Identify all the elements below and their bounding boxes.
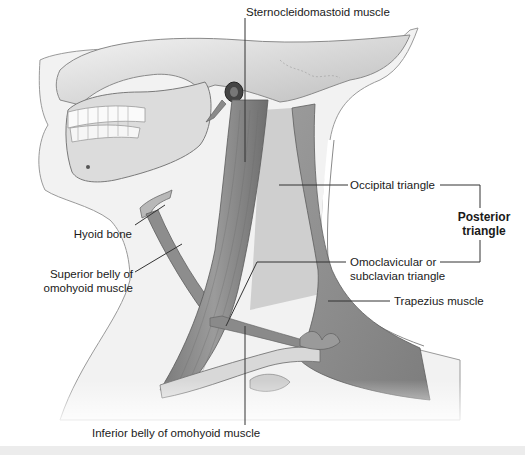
label-omoclavicular-triangle: Omoclavicular or subclavian triangle <box>350 255 445 283</box>
anatomy-figure: Sternocleidomastoid muscle Occipital tri… <box>0 0 525 455</box>
label-sternocleidomastoid: Sternocleidomastoid muscle <box>246 5 390 19</box>
bottom-band <box>0 446 525 455</box>
label-superior-belly-line1: Superior belly of <box>5 267 133 281</box>
label-omoclavicular-line1: Omoclavicular or <box>350 255 445 269</box>
label-trapezius: Trapezius muscle <box>394 294 484 308</box>
label-inferior-belly-omohyoid: Inferior belly of omohyoid muscle <box>92 426 260 440</box>
label-occipital-triangle: Occipital triangle <box>350 178 435 192</box>
label-superior-belly-omohyoid: Superior belly of omohyoid muscle <box>5 267 133 295</box>
label-superior-belly-line2: omohyoid muscle <box>5 281 133 295</box>
label-hyoid-bone: Hyoid bone <box>30 227 132 241</box>
label-omoclavicular-line2: subclavian triangle <box>350 269 445 283</box>
label-posterior-triangle-line2: triangle <box>452 224 516 238</box>
label-posterior-triangle-line1: Posterior <box>452 210 516 224</box>
label-posterior-triangle: Posterior triangle <box>452 210 516 238</box>
